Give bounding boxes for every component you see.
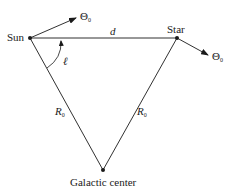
star-velocity-symbol: Θ: [212, 50, 220, 62]
star-velocity-subscript: 0: [220, 57, 223, 63]
sun-point-icon: [28, 36, 32, 40]
star-center-r-subscript: 0: [144, 112, 147, 118]
star-label: Star: [167, 24, 185, 35]
sun-center-r-subscript: 0: [62, 112, 65, 118]
sun-velocity-symbol: Θ: [80, 10, 88, 22]
longitude-l-label: ℓ: [63, 56, 68, 67]
star-velocity-label: Θ0: [212, 51, 223, 63]
sun-label: Sun: [7, 32, 24, 43]
star-center-distance-label: R0: [137, 106, 147, 118]
sun-velocity-arrow: [30, 18, 76, 38]
distance-d-label: d: [110, 26, 116, 37]
sun-center-r-symbol: R: [55, 105, 62, 117]
star-velocity-arrow: [177, 38, 208, 55]
sun-velocity-subscript: 0: [88, 17, 91, 23]
longitude-angle-arc: [47, 41, 61, 68]
galactic-rotation-diagram: [0, 0, 240, 191]
sun-velocity-label: Θ0: [80, 11, 91, 23]
galactic-center-label: Galactic center: [70, 177, 136, 188]
sun-center-distance-label: R0: [55, 106, 65, 118]
edge-star-center: [103, 38, 177, 170]
galactic-center-point-icon: [101, 168, 105, 172]
star-center-r-symbol: R: [137, 105, 144, 117]
star-point-icon: [175, 36, 179, 40]
